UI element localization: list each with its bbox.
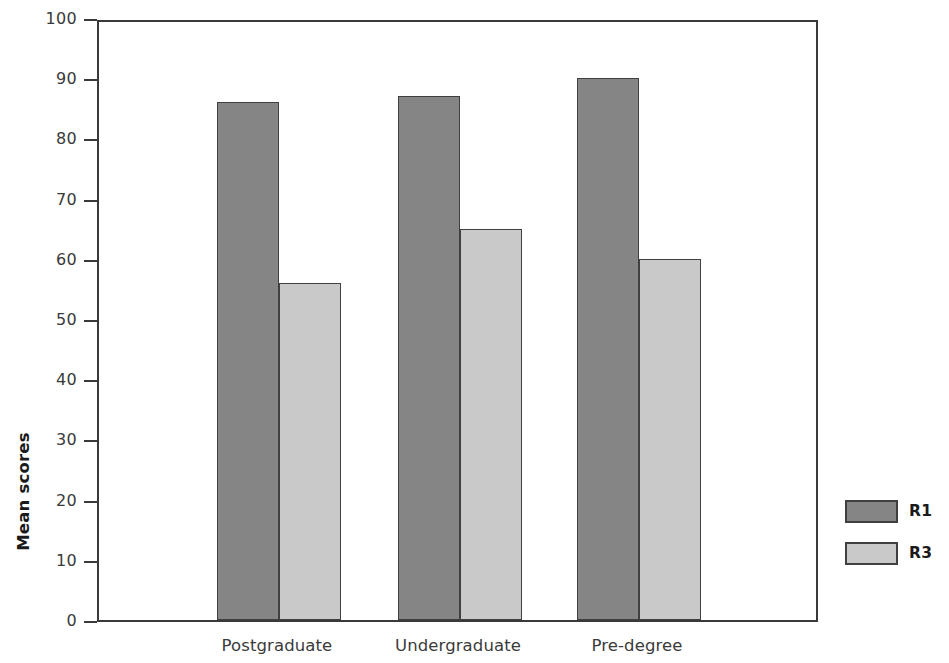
y-axis-tick-mark bbox=[84, 621, 97, 623]
y-axis-title-label: Mean scores bbox=[14, 417, 33, 567]
legend-label-r1: R1 bbox=[909, 502, 932, 520]
legend-label-r3: R3 bbox=[909, 544, 932, 562]
y-axis-tick-label: 50 bbox=[31, 310, 77, 329]
legend-item-r3[interactable]: R3 bbox=[845, 542, 949, 572]
y-axis-tick-label: 10 bbox=[31, 551, 77, 570]
x-axis-tick-label: Pre-degree bbox=[527, 636, 747, 655]
y-axis-tick-mark bbox=[84, 200, 97, 202]
bar-r1-postgraduate bbox=[217, 102, 279, 620]
y-axis-tick-label: 70 bbox=[31, 190, 77, 209]
bar-r1-pre-degree bbox=[577, 78, 639, 620]
y-axis-tick-label: 20 bbox=[31, 491, 77, 510]
y-axis-tick-mark bbox=[84, 260, 97, 262]
y-axis-tick-mark bbox=[84, 19, 97, 21]
plot-area bbox=[97, 20, 818, 622]
y-axis-tick-mark bbox=[84, 561, 97, 563]
y-axis-tick-label: 100 bbox=[31, 9, 77, 28]
legend-swatch-r3 bbox=[845, 542, 898, 565]
y-axis-tick-mark bbox=[84, 320, 97, 322]
legend-swatch-r1 bbox=[845, 500, 898, 523]
y-axis-tick-mark bbox=[84, 501, 97, 503]
y-axis-tick-mark bbox=[84, 440, 97, 442]
y-axis-tick-label: 90 bbox=[31, 69, 77, 88]
y-axis-tick-label: 40 bbox=[31, 370, 77, 389]
y-axis-tick-mark bbox=[84, 139, 97, 141]
bar-r1-undergraduate bbox=[398, 96, 460, 620]
y-axis-tick-label: 80 bbox=[31, 129, 77, 148]
y-axis-tick-label: 30 bbox=[31, 430, 77, 449]
chart-legend: R1R3 bbox=[845, 500, 949, 584]
y-axis-tick-mark bbox=[84, 79, 97, 81]
bar-r3-undergraduate bbox=[460, 229, 522, 620]
bar-chart: Mean scores 0102030405060708090100 Postg… bbox=[0, 0, 949, 663]
bar-r3-pre-degree bbox=[639, 259, 701, 620]
y-axis-tick-mark bbox=[84, 380, 97, 382]
y-axis-tick-label: 0 bbox=[31, 611, 77, 630]
legend-item-r1[interactable]: R1 bbox=[845, 500, 949, 530]
y-axis-tick-label: 60 bbox=[31, 250, 77, 269]
bar-r3-postgraduate bbox=[279, 283, 341, 620]
